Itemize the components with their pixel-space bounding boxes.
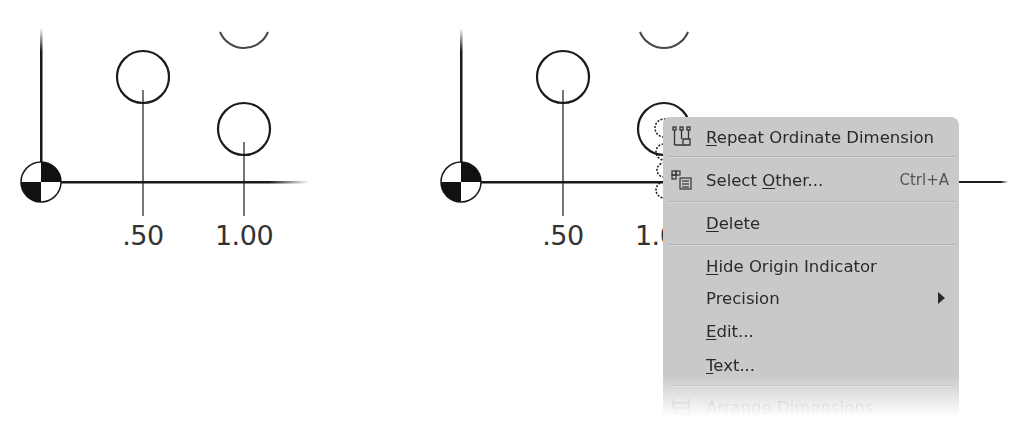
horizontal-axis-line[interactable]	[41, 181, 309, 184]
menu-item-select-other[interactable]: Select Other... Ctrl+A	[663, 162, 959, 198]
menu-item-text[interactable]: Text...	[663, 347, 959, 383]
ordinate-dimension-label[interactable]: .50	[122, 220, 163, 251]
select-other-icon	[671, 169, 693, 191]
menu-separator	[669, 201, 955, 203]
vertical-axis-line[interactable]	[40, 28, 43, 183]
arrange-dimensions-icon	[671, 396, 693, 418]
ordinate-dimension-label[interactable]: .50	[542, 220, 583, 251]
horizontal-axis-line-extension	[958, 181, 1008, 183]
menu-item-hide-origin-indicator[interactable]: Hide Origin Indicator	[663, 248, 959, 284]
ordinate-dimension-label[interactable]: 1.00	[215, 220, 273, 251]
vertical-axis-line[interactable]	[460, 28, 463, 183]
menu-item-delete[interactable]: Delete	[663, 205, 959, 241]
menu-separator	[669, 385, 955, 387]
menu-item-precision[interactable]: Precision	[663, 280, 959, 316]
origin-indicator-icon[interactable]	[441, 162, 481, 202]
submenu-arrow-icon	[938, 292, 945, 304]
origin-indicator-icon[interactable]	[21, 162, 61, 202]
shortcut-label: Ctrl+A	[899, 171, 949, 189]
repeat-ordinate-dimension-icon	[671, 126, 693, 148]
left-view	[21, 28, 309, 216]
menu-item-repeat-ordinate-dimension[interactable]: Repeat Ordinate Dimension	[663, 119, 959, 155]
menu-separator	[669, 244, 955, 246]
hole-circle-partial[interactable]	[640, 32, 688, 48]
menu-item-arrange-dimensions[interactable]: Arrange Dimensions	[663, 389, 959, 421]
context-menu: Repeat Ordinate Dimension Select Other..…	[663, 117, 959, 417]
menu-item-edit[interactable]: Edit...	[663, 313, 959, 349]
hole-circle-partial[interactable]	[220, 32, 268, 48]
menu-separator	[669, 156, 955, 158]
